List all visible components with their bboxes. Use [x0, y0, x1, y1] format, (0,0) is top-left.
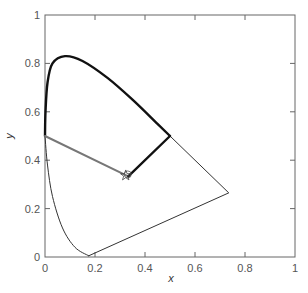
x-tick-label: 0.8 — [237, 262, 252, 274]
y-tick-label: 1 — [34, 9, 40, 21]
y-tick-label: 0 — [34, 251, 40, 263]
y-axis-label: y — [3, 132, 15, 140]
x-axis: 00.20.40.60.81 — [42, 15, 298, 274]
y-tick-label: 0.2 — [25, 203, 40, 215]
gray-line-to-white — [45, 136, 128, 176]
chromaticity-chart: 00.20.40.60.81 00.20.40.60.81 x y — [0, 0, 308, 293]
x-axis-label: x — [167, 272, 174, 284]
y-tick-label: 0.6 — [25, 106, 40, 118]
y-tick-label: 0.4 — [25, 154, 40, 166]
x-tick-label: 0.2 — [87, 262, 102, 274]
x-tick-label: 0.4 — [137, 262, 152, 274]
x-tick-label: 0.6 — [187, 262, 202, 274]
purple-and-red-boundary — [89, 136, 229, 256]
series-layer — [45, 56, 229, 256]
spectral-locus-bold — [45, 56, 170, 136]
x-tick-label: 1 — [292, 262, 298, 274]
x-tick-label: 0 — [42, 262, 48, 274]
y-tick-label: 0.8 — [25, 57, 40, 69]
y-axis: 00.20.40.60.81 — [25, 9, 295, 263]
black-line-to-white — [128, 136, 170, 176]
